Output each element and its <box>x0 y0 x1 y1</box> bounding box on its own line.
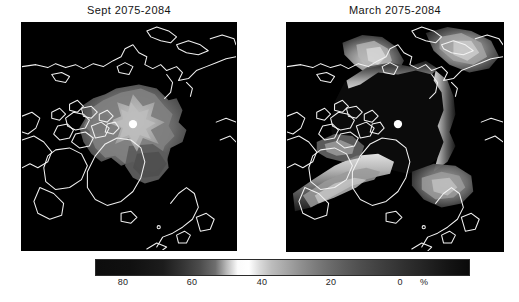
sept-map-graphic <box>22 23 236 250</box>
colorbar-tick-40: 40 <box>251 277 273 287</box>
colorbar-tick-20: 20 <box>320 277 342 287</box>
figure-canvas: Sept 2075-2084 <box>0 0 519 302</box>
colorbar-unit-label: % <box>420 277 428 287</box>
march-map-graphic <box>287 23 503 251</box>
colorbar[interactable] <box>95 259 470 276</box>
panel-title-sept: Sept 2075-2084 <box>21 4 237 16</box>
colorbar-tick-60: 60 <box>181 277 203 287</box>
march-north-pole-marker <box>394 120 402 128</box>
colorbar-tick-0: 0 <box>389 277 411 287</box>
colorbar-tick-80: 80 <box>112 277 134 287</box>
map-panel-sept[interactable] <box>21 22 237 251</box>
sept-north-pole-marker <box>129 120 137 128</box>
map-panel-march[interactable] <box>286 22 504 252</box>
colorbar-tick-labels: 80 60 40 20 0 % <box>95 277 503 291</box>
panel-title-march: March 2075-2084 <box>286 4 504 16</box>
colorbar-gradient-strip <box>95 259 470 276</box>
